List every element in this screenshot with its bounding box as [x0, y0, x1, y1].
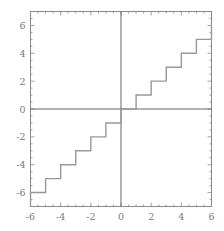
x-tick-label: 6 [208, 211, 214, 222]
step-function-plot: -6-4-20246 -6-4-20246 [0, 0, 224, 231]
x-tick-label: 0 [118, 211, 124, 222]
y-tick-label: -6 [16, 187, 25, 198]
y-tick-label: 4 [19, 48, 25, 59]
x-tick-label: 4 [178, 211, 184, 222]
x-tick-label: -4 [56, 211, 65, 222]
y-tick-label: 0 [19, 104, 25, 115]
x-axis-tick-labels: -6-4-20246 [26, 211, 215, 222]
y-axis-tick-labels: -6-4-20246 [16, 20, 25, 198]
y-tick-label: -4 [16, 159, 25, 170]
y-tick-label: 2 [19, 76, 25, 87]
y-tick-label: 6 [19, 20, 25, 31]
y-tick-label: -2 [16, 131, 25, 142]
x-tick-label: -6 [26, 211, 35, 222]
chart-container: -6-4-20246 -6-4-20246 [0, 0, 224, 231]
x-tick-label: -2 [86, 211, 95, 222]
x-tick-label: 2 [148, 211, 154, 222]
